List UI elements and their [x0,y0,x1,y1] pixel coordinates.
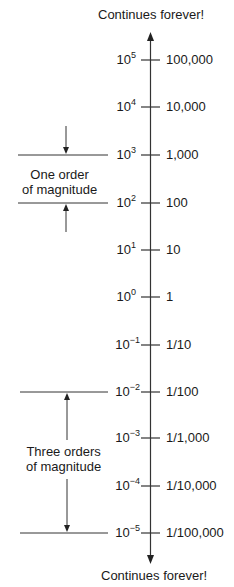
exponent-label: 103 [92,147,136,162]
value-label: 1/10 [166,337,191,352]
arrow-down-icon [63,147,69,154]
bottom-label: Continues forever! [101,568,207,583]
value-label: 100,000 [166,52,213,67]
arrow-up-icon [64,393,70,400]
annotation-line: One order [22,167,97,182]
value-label: 10 [166,242,180,257]
value-label: 1 [166,289,173,304]
value-label: 1/10,000 [166,478,217,493]
value-label: 1/100,000 [166,525,224,540]
annotation-line: of magnitude [26,459,101,474]
arrow-up-icon [63,204,69,211]
exponent-label: 101 [92,242,136,257]
annotation-line: Three orders [26,444,101,459]
arrow-up-icon [147,32,154,41]
top-label: Continues forever! [98,7,204,22]
value-label: 100 [166,195,188,210]
one-order-annotation: One order of magnitude [22,167,97,197]
exponent-label: 10−2 [96,384,140,399]
exponent-label: 10−1 [96,337,140,352]
exponent-label: 104 [92,99,136,114]
exponent-label: 10−3 [96,430,140,445]
exponent-label: 10−5 [96,525,140,540]
value-label: 10,000 [166,99,206,114]
exponent-label: 102 [92,195,136,210]
arrow-down-icon [64,525,70,532]
annotation-line: of magnitude [22,182,97,197]
three-orders-annotation: Three orders of magnitude [26,444,101,474]
exponent-label: 100 [92,289,136,304]
exponent-label: 10−4 [96,478,140,493]
exponent-label: 105 [92,52,136,67]
arrow-down-icon [147,555,154,564]
value-label: 1/1,000 [166,430,209,445]
value-label: 1/100 [166,384,199,399]
value-label: 1,000 [166,147,199,162]
